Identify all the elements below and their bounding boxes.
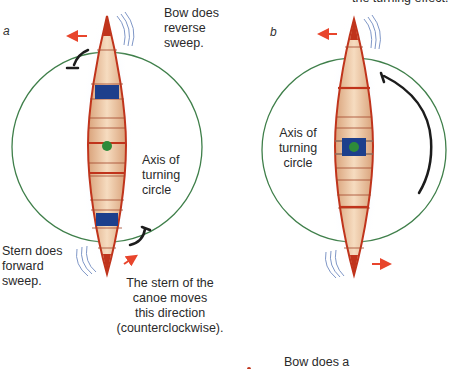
label-line: turning xyxy=(268,141,328,156)
axis-turning-circle-label-b: Axis of turning circle xyxy=(268,126,328,171)
label-line: (counterclockwise). xyxy=(112,321,228,336)
bow-seat xyxy=(95,85,119,99)
label-line: circle xyxy=(142,183,180,198)
stern-motion-label: The stern of the canoe moves this direct… xyxy=(112,276,228,336)
label-line: Stern does xyxy=(2,244,62,259)
stern-motion-arrow-icon xyxy=(124,258,133,264)
label-line: Bow does xyxy=(164,6,219,21)
pivot-point xyxy=(349,142,359,152)
sweep-arc-icon xyxy=(381,73,431,193)
label-line: canoe moves xyxy=(112,291,228,306)
label-line: Axis of xyxy=(268,126,328,141)
panel-letter-b: b xyxy=(270,25,277,39)
label-line: turning xyxy=(142,168,180,183)
pivot-point xyxy=(102,141,112,151)
stern-seat xyxy=(96,213,118,226)
label-line: circle xyxy=(268,156,328,171)
label-line: The stern of the xyxy=(112,276,228,291)
label-line: sweep. xyxy=(2,274,62,289)
bow-reverse-sweep-label: Bow does reverse sweep. xyxy=(164,6,219,51)
label-line: sweep. xyxy=(164,36,219,51)
label-line: forward xyxy=(2,259,62,274)
label-line: Axis of xyxy=(142,153,180,168)
label-line: this direction xyxy=(112,306,228,321)
stern-forward-sweep-label: Stern does forward sweep. xyxy=(2,244,62,289)
panel-letter-a: a xyxy=(3,24,10,38)
axis-turning-circle-label-a: Axis of turning circle xyxy=(142,153,180,198)
label-line: reverse xyxy=(164,21,219,36)
turning-effect-caption: the turning effect. xyxy=(352,0,448,6)
bow-does-a-caption: Bow does a xyxy=(284,355,349,369)
